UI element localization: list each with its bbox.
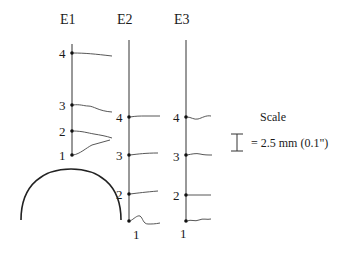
- e2-title: E2: [117, 12, 133, 27]
- scale-legend: Scale = 2.5 mm (0.1"): [231, 110, 328, 151]
- e2-label-4: 4: [116, 110, 123, 125]
- electrode-diagram: E1 E2 E3 4 3 2 1 4 3: [0, 0, 352, 260]
- electrode-e3: 4 3 2 1: [173, 40, 212, 241]
- e2-wave-2: [130, 191, 158, 194]
- e3-label-2: 2: [173, 188, 180, 203]
- diagram-svg: E1 E2 E3 4 3 2 1 4 3: [0, 0, 352, 260]
- e1-title: E1: [60, 12, 76, 27]
- e1-wave-4: [73, 53, 112, 56]
- e1-wave-1: [73, 140, 110, 155]
- scale-text: = 2.5 mm (0.1"): [251, 136, 328, 150]
- e2-wave-1: [130, 216, 160, 224]
- semicircle-outline: [21, 169, 121, 220]
- e1-wave-3: [73, 105, 112, 112]
- e1-label-3: 3: [59, 98, 66, 113]
- e1-label-4: 4: [59, 46, 66, 61]
- scale-title: Scale: [260, 110, 286, 124]
- e3-wave-4: [187, 116, 211, 119]
- e2-label-3: 3: [116, 148, 123, 163]
- e1-label-1: 1: [59, 148, 66, 163]
- e3-label-3: 3: [173, 149, 180, 164]
- electrode-e1: 4 3 2 1: [59, 44, 112, 163]
- e1-label-2: 2: [59, 124, 66, 139]
- e1-wave-2: [73, 131, 112, 138]
- e2-wave-4: [130, 116, 160, 117]
- e3-title: E3: [174, 12, 190, 27]
- e3-label-4: 4: [173, 110, 180, 125]
- electrode-e2: 4 3 2 1: [116, 40, 160, 242]
- e3-label-1: 1: [180, 226, 187, 241]
- e2-label-2: 2: [116, 187, 123, 202]
- e2-wave-3: [130, 153, 158, 155]
- e3-wave-3: [187, 154, 212, 155]
- e2-label-1: 1: [133, 227, 140, 242]
- e3-wave-1: [187, 219, 211, 221]
